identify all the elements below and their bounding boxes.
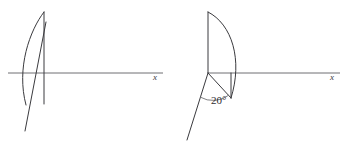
left-slant-edge [25,22,46,131]
geometry-figure: x 20° x [0,0,352,148]
right-panel-group: 20° x [187,12,340,140]
figure-container: x 20° x [0,0,352,148]
right-inclined-ray [187,73,208,140]
left-axis-label: x [152,72,157,82]
left-curved-edge [23,12,44,105]
right-axis-label: x [329,72,334,82]
left-panel-group: x [8,12,163,131]
angle-label: 20° [211,94,226,106]
right-curved-edge [208,12,236,98]
